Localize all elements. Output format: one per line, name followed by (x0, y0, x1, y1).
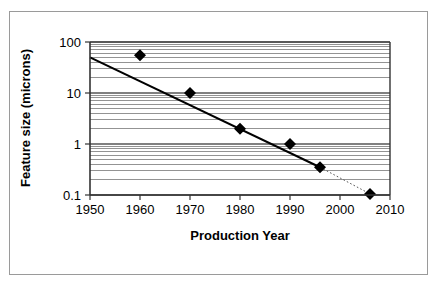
y-tick-label: 10 (67, 86, 81, 101)
y-tick-label: 0.1 (63, 188, 81, 203)
figure-root: 1950196019701980199020002010 0.1110100 P… (0, 0, 438, 286)
chart-canvas: 1950196019701980199020002010 0.1110100 P… (0, 0, 438, 286)
y-tick-label: 100 (59, 35, 81, 50)
x-tick-label: 2000 (326, 202, 355, 217)
x-tick-label: 1950 (76, 202, 105, 217)
plot-background (90, 42, 390, 195)
x-axis-title: Production Year (190, 228, 289, 243)
x-tick-label: 1960 (126, 202, 155, 217)
y-tick-label: 1 (74, 137, 81, 152)
x-tick-label: 2010 (376, 202, 405, 217)
y-axis-title: Feature size (microns) (18, 49, 33, 187)
x-tick-label: 1970 (176, 202, 205, 217)
x-tick-label: 1990 (276, 202, 305, 217)
x-tick-label: 1980 (226, 202, 255, 217)
y-tick-labels: 0.1110100 (59, 35, 81, 203)
x-tick-labels: 1950196019701980199020002010 (76, 202, 405, 217)
